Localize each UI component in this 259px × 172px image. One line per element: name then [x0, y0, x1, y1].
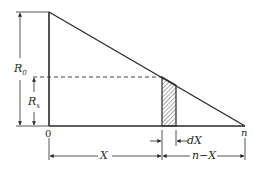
n-minus-x-label: n−X [192, 150, 216, 161]
rx-label: Rx [28, 96, 40, 110]
rx-label-sub: x [36, 102, 40, 110]
origin-label: 0 [45, 129, 51, 139]
r0-label-sub: 0 [22, 69, 26, 77]
hatched-strip [162, 77, 176, 126]
triangle [49, 12, 245, 126]
r0-label: R0 [14, 63, 27, 77]
diagram-canvas: R0 Rx 0 n X dX n−X [0, 0, 259, 172]
n-label: n [241, 128, 247, 138]
dx-label: dX [187, 135, 202, 146]
diagram-svg [0, 0, 259, 172]
x-label: X [100, 150, 108, 161]
